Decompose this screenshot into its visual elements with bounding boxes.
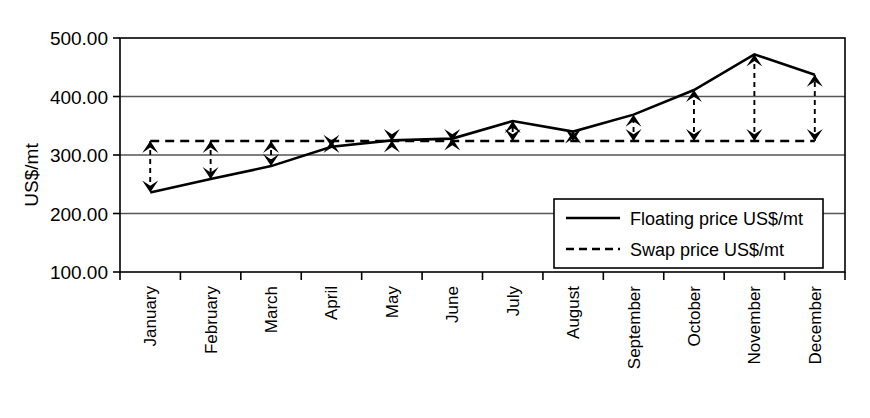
chart-legend: Floating price US$/mt Swap price US$/mt xyxy=(554,199,823,268)
x-tick-label-may: May xyxy=(383,286,402,319)
y-tick-label: 500.00 xyxy=(50,28,108,49)
y-tick-label: 100.00 xyxy=(50,262,108,283)
x-tick-label-july: July xyxy=(504,286,523,317)
x-tick-label-november: November xyxy=(745,286,764,365)
y-axis-title: US$/mt xyxy=(21,143,42,207)
x-tick-label-october: October xyxy=(685,286,704,347)
y-tick-label: 200.00 xyxy=(50,204,108,225)
price-comparison-line-chart: US$/mt 100.00200.00300.00400.00500.00 Ja… xyxy=(0,0,870,418)
x-tick-label-february: February xyxy=(202,286,221,355)
x-tick-label-march: March xyxy=(262,286,281,333)
x-tick-label-august: August xyxy=(564,286,583,339)
legend-label-swap: Swap price US$/mt xyxy=(630,240,784,260)
x-tick-label-september: September xyxy=(625,286,644,369)
chart-container: US$/mt 100.00200.00300.00400.00500.00 Ja… xyxy=(0,0,870,418)
x-tick-label-june: June xyxy=(443,286,462,323)
x-tick-label-december: December xyxy=(806,286,825,365)
legend-label-floating: Floating price US$/mt xyxy=(630,209,803,229)
x-tick-label-january: January xyxy=(141,286,160,347)
y-tick-label: 400.00 xyxy=(50,87,108,108)
x-tick-label-april: April xyxy=(322,286,341,320)
y-tick-label: 300.00 xyxy=(50,145,108,166)
